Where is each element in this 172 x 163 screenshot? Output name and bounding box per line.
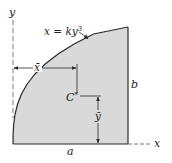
- centroid-diagram: y x x = ky3 x̄ C* ȳ b a: [0, 0, 172, 163]
- y-bar-label: ȳ: [94, 110, 102, 122]
- y-axis-label: y: [8, 6, 16, 19]
- curve-equation: x = ky3: [44, 25, 83, 37]
- equation-leader-arrow: [79, 32, 88, 39]
- x-bar-label: x̄: [34, 61, 40, 73]
- height-label-b: b: [131, 78, 138, 91]
- curve-equation-main: x = ky: [44, 25, 79, 37]
- width-label-a: a: [67, 145, 74, 158]
- x-axis-label: x: [154, 137, 161, 150]
- centroid-marker: *: [74, 91, 78, 99]
- curve-equation-exponent: 3: [78, 25, 83, 33]
- shaded-area: [13, 27, 128, 144]
